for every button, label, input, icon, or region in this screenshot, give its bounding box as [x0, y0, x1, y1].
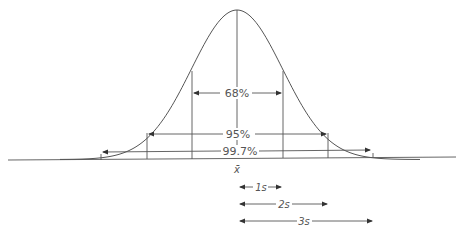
mean-label: x̄ [233, 164, 240, 175]
interval-68-label: 68% [225, 87, 249, 100]
sd-3-label: 3s [298, 216, 310, 227]
interval-997-arrow-right [259, 150, 370, 151]
interval-95-label: 95% [226, 128, 250, 141]
sd-1-label: 1s [255, 182, 267, 193]
sd-2-label: 2s [278, 199, 290, 210]
normal-distribution-diagram: 68% 95% 99.7% x̄ 1s 2s 3s [0, 0, 466, 234]
interval-997-arrow-left [103, 151, 221, 152]
interval-997-label: 99.7% [223, 145, 258, 158]
